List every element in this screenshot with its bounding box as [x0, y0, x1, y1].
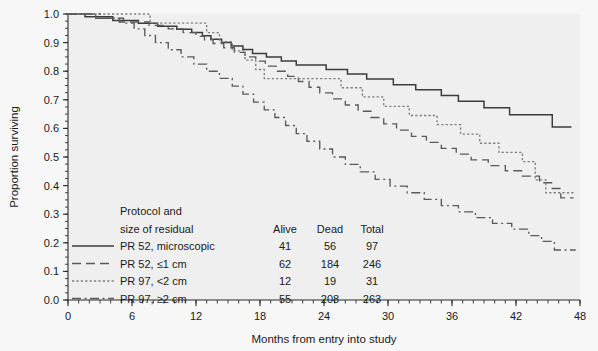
x-tick-label: 24: [318, 310, 330, 322]
legend-row-value: 263: [363, 293, 381, 305]
y-tick-label: 0.6: [44, 122, 59, 134]
y-tick-label: 1.0: [44, 8, 59, 20]
x-tick-label: 42: [510, 310, 522, 322]
x-tick-label: 48: [574, 310, 586, 322]
survival-curve-figure: 0.00.10.20.30.40.50.60.70.80.91.0 061218…: [0, 0, 598, 351]
legend-row-value: 19: [324, 275, 336, 287]
legend-row-value: 55: [279, 293, 291, 305]
y-tick-label: 0.1: [44, 265, 59, 277]
legend-row-label: PR 52, ≤1 cm: [120, 258, 187, 270]
legend-column-header: Total: [360, 223, 383, 235]
legend-row-value: 56: [324, 240, 336, 252]
legend-column-header: Dead: [317, 223, 343, 235]
legend-row-value: 12: [279, 275, 291, 287]
x-tick-label: 18: [254, 310, 266, 322]
legend-row-value: 184: [321, 258, 339, 270]
x-axis-title: Months from entry into study: [251, 333, 396, 345]
y-tick-label: 0.7: [44, 94, 59, 106]
y-tick-label: 0.5: [44, 151, 59, 163]
legend-row-label: PR 97, ≥2 cm: [120, 293, 187, 305]
y-tick-label: 0.0: [44, 294, 59, 306]
legend-header-line-1: Protocol and: [120, 205, 182, 217]
y-tick-label: 0.2: [44, 237, 59, 249]
x-tick-label: 6: [129, 310, 135, 322]
legend-row-label: PR 52, microscopic: [120, 240, 215, 252]
legend-row-value: 246: [363, 258, 381, 270]
legend-column-header: Alive: [273, 223, 297, 235]
x-tick-label: 36: [446, 310, 458, 322]
legend-row-value: 31: [366, 275, 378, 287]
legend-row-value: 208: [321, 293, 339, 305]
x-tick-label: 12: [190, 310, 202, 322]
y-tick-label: 0.9: [44, 37, 59, 49]
legend-row-label: PR 97, <2 cm: [120, 275, 187, 287]
legend-row-value: 62: [279, 258, 291, 270]
x-tick-label: 0: [65, 310, 71, 322]
y-tick-label: 0.3: [44, 208, 59, 220]
plot-canvas: 0.00.10.20.30.40.50.60.70.80.91.0 061218…: [0, 0, 598, 351]
x-tick-label: 30: [382, 310, 394, 322]
y-axis-title: Proportion surviving: [8, 106, 20, 208]
y-tick-label: 0.8: [44, 65, 59, 77]
y-tick-label: 0.4: [44, 180, 59, 192]
legend-row-value: 41: [279, 240, 291, 252]
legend-header-line-2: size of residual: [120, 223, 193, 235]
legend-row-value: 97: [366, 240, 378, 252]
